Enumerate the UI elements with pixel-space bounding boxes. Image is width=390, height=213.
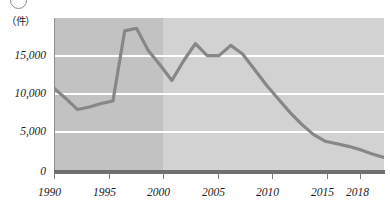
circle-outline-mark	[10, 0, 27, 9]
y-axis-unit-label: （件）	[6, 13, 35, 28]
y-tick-label-15000: 15,000	[2, 49, 46, 61]
x-tick-label-2005: 2005	[202, 186, 225, 198]
x-tick-2015	[327, 173, 328, 179]
x-tick-label-1995: 1995	[93, 186, 116, 198]
y-axis-line	[54, 18, 55, 172]
y-tick-label-0: 0	[2, 165, 46, 177]
x-tick-2018	[360, 173, 361, 179]
x-tick-label-1990: 1990	[38, 186, 61, 198]
x-tick-label-2018: 2018	[346, 186, 369, 198]
x-tick-label-2015: 2015	[311, 186, 334, 198]
line-chart-figure: （件） 0 5,000 10,000 15,000 1990 1995 2000…	[0, 0, 390, 213]
x-tick-1995	[109, 173, 110, 179]
x-tick-2005	[218, 173, 219, 179]
x-tick-1990	[54, 173, 55, 179]
x-tick-2000	[163, 173, 164, 179]
y-tick-label-10000: 10,000	[2, 87, 46, 99]
plot-area	[54, 18, 384, 172]
x-tick-label-2000: 2000	[147, 186, 170, 198]
x-tick-2010	[272, 173, 273, 179]
x-tick-label-2010: 2010	[256, 186, 279, 198]
series-line-path	[54, 18, 384, 172]
y-tick-label-5000: 5,000	[2, 125, 46, 137]
x-axis-line	[54, 170, 385, 174]
